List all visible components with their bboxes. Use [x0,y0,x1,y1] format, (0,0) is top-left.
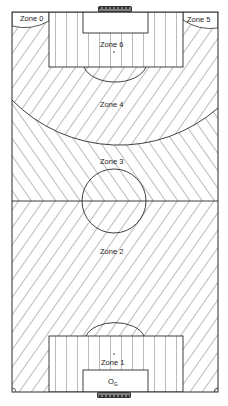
zone-1-label: Zone 1 [101,358,124,367]
zone-4-label: Zone 4 [100,100,123,109]
goal-area-top [83,12,148,33]
zone-6-label: Zone 6 [100,40,123,49]
zone-5-label: Zone 5 [187,15,210,24]
zone-0-label: Zone 0 [20,14,43,23]
zone-3-label: Zone 3 [100,157,123,166]
pitch-diagram: Zone 0 Zone 5 Zone 6 Zone 4 Zone 3 Zone … [0,0,228,406]
zone-2-label: Zone 2 [100,247,123,256]
